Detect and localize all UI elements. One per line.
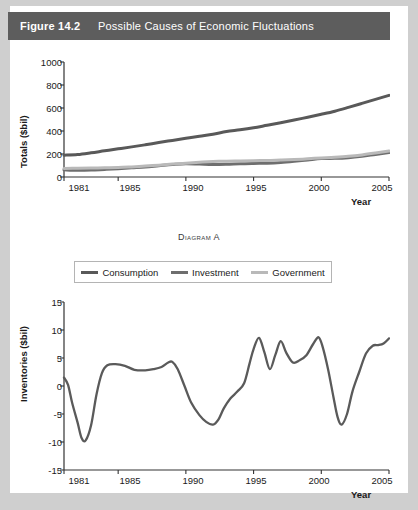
diagram-a-xtick-1985: 1985 bbox=[109, 182, 151, 193]
diagram-a-xtick-2005: 2005 bbox=[361, 182, 403, 193]
diagram-a-plot bbox=[8, 46, 390, 246]
diagram-b-xtick-2000: 2000 bbox=[298, 475, 340, 486]
diagram-b-xtick-2005: 2005 bbox=[361, 475, 403, 486]
diagram-b-xtick-1985: 1985 bbox=[109, 475, 151, 486]
diagram-a-xtick-1981: 1981 bbox=[58, 182, 100, 193]
diagram-a-xlabel: Year bbox=[351, 196, 371, 207]
diagram-b-xtick-1990: 1990 bbox=[172, 475, 214, 486]
diagram-b-ytick-neg15: -15 bbox=[20, 465, 62, 476]
diagram-b-ytick-10: 10 bbox=[20, 325, 62, 336]
figure-title: Possible Causes of Economic Fluctuations bbox=[98, 20, 314, 32]
diagram-a-ytick-0: 0 bbox=[20, 172, 62, 183]
figure-number: Figure 14.2 bbox=[20, 20, 98, 32]
diagram-a-ylabel: Totals ($bil) bbox=[18, 115, 29, 168]
diagram-a-chart: Totals ($bil) 1000 800 600 400 200 0 198… bbox=[8, 46, 390, 246]
diagram-b-xlabel: Year bbox=[351, 489, 371, 500]
figure-page: Figure 14.2 Possible Causes of Economic … bbox=[0, 0, 418, 510]
diagram-b-plot bbox=[8, 262, 390, 482]
diagram-b-xtick-1981: 1981 bbox=[58, 475, 100, 486]
diagram-b-chart: Inventories ($bil) 15 10 5 0 -5 -10 -15 … bbox=[8, 262, 390, 482]
diagram-a-caption: Diagram A bbox=[8, 232, 390, 242]
diagram-b-ytick-5: 5 bbox=[20, 353, 62, 364]
diagram-a-ytick-200: 200 bbox=[20, 149, 62, 160]
diagram-b-ytick-15: 15 bbox=[20, 297, 62, 308]
diagram-b-ytick-0: 0 bbox=[20, 381, 62, 392]
diagram-b-ytick-neg5: -5 bbox=[20, 409, 62, 420]
diagram-b-xtick-1995: 1995 bbox=[235, 475, 277, 486]
diagram-a-ytick-1000: 1000 bbox=[20, 57, 62, 68]
diagram-a-ytick-600: 600 bbox=[20, 103, 62, 114]
diagram-a-xtick-1995: 1995 bbox=[235, 182, 277, 193]
diagram-b-ytick-neg10: -10 bbox=[20, 437, 62, 448]
diagram-a-xtick-1990: 1990 bbox=[172, 182, 214, 193]
figure-header-bar: Figure 14.2 Possible Causes of Economic … bbox=[8, 12, 390, 40]
diagram-a-ytick-800: 800 bbox=[20, 80, 62, 91]
diagram-a-xtick-2000: 2000 bbox=[298, 182, 340, 193]
diagram-a-ytick-400: 400 bbox=[20, 126, 62, 137]
